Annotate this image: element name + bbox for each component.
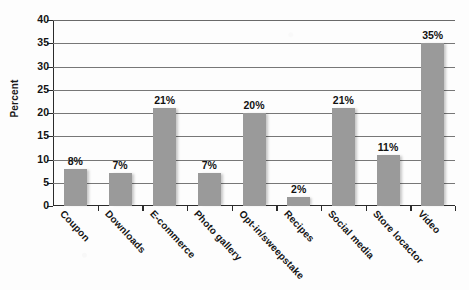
gridline	[53, 90, 455, 91]
bar: 2%	[287, 197, 310, 206]
y-tick-label: 10	[37, 153, 49, 165]
gridline	[53, 20, 455, 21]
gridline	[53, 43, 455, 44]
bar: 7%	[198, 173, 221, 206]
bar: 7%	[109, 173, 132, 206]
x-axis-label: E-commerce	[148, 208, 198, 260]
bar: 21%	[332, 108, 355, 206]
bar-value-label: 21%	[154, 94, 175, 106]
y-tick-label: 40	[37, 13, 49, 25]
x-axis-label: Social media	[326, 208, 377, 261]
y-tick-label: 0	[43, 199, 49, 211]
x-axis-label: Coupon	[58, 208, 92, 244]
x-axis-label: Downloads	[103, 208, 148, 255]
y-tick-label: 25	[37, 83, 49, 95]
y-tick-label: 15	[37, 129, 49, 141]
gridline	[53, 67, 455, 68]
bar: 8%	[64, 169, 87, 206]
x-tick-mark	[455, 206, 456, 211]
bar-value-label: 11%	[378, 141, 398, 153]
y-axis-title: Percent	[9, 69, 20, 129]
x-axis-label: Recipes	[282, 208, 317, 244]
y-tick-label: 5	[43, 176, 49, 188]
y-tick-label: 20	[37, 106, 49, 118]
x-axis-label: Photo gallery	[192, 208, 244, 263]
y-tick-label: 30	[37, 60, 49, 72]
bar-chart-figure: Percent 0510152025303540 8%7%21%7%20%2%2…	[0, 0, 469, 290]
bar-value-label: 8%	[68, 155, 83, 167]
bar: 20%	[243, 113, 266, 206]
bar-value-label: 20%	[243, 99, 264, 111]
bar: 35%	[421, 43, 444, 206]
y-tick-label: 35	[37, 36, 49, 48]
x-axis-labels-group: CouponDownloadsE-commercePhoto galleryOp…	[53, 208, 455, 288]
plot-area: 0510152025303540 8%7%21%7%20%2%21%11%35%	[53, 20, 455, 206]
bar: 21%	[153, 108, 176, 206]
bar-value-label: 21%	[333, 94, 354, 106]
bar-value-label: 2%	[291, 183, 306, 195]
bar-value-label: 7%	[202, 159, 217, 171]
x-axis-label: Video	[416, 208, 443, 236]
bar: 11%	[377, 155, 400, 206]
bar-value-label: 35%	[422, 29, 443, 41]
bar-value-label: 7%	[112, 159, 127, 171]
